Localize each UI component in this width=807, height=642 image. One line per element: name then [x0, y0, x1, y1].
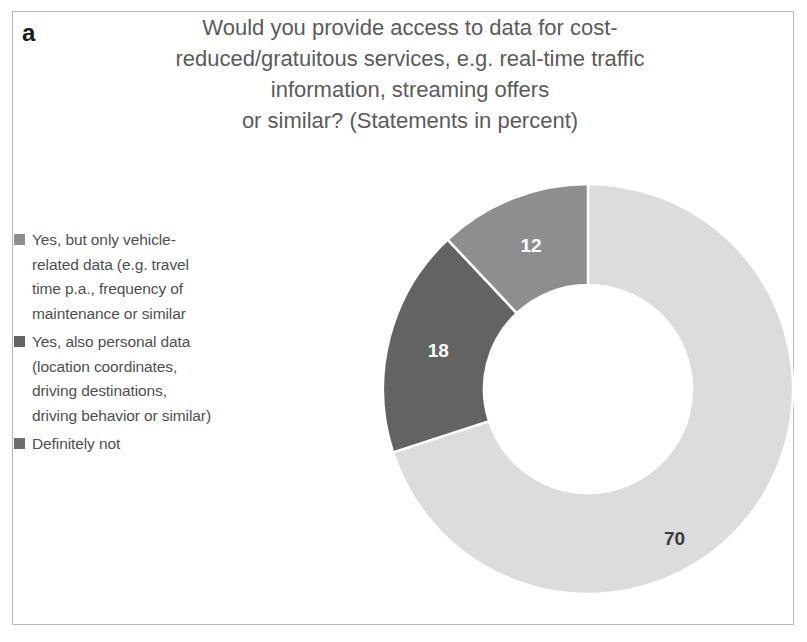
legend-item-label: Yes, also personal data (location coordi…: [32, 330, 211, 428]
legend-label-line: driving behavior or similar): [32, 407, 211, 424]
legend-label-line: time p.a., frequency of: [32, 280, 183, 297]
legend-item-vehicle-related-data[interactable]: Yes, but only vehicle- related data (e.g…: [14, 228, 282, 326]
legend-item-personal-data[interactable]: Yes, also personal data (location coordi…: [14, 330, 282, 428]
chart-legend: Yes, but only vehicle- related data (e.g…: [14, 228, 282, 461]
legend-swatch-icon: [14, 336, 25, 347]
slice-value-label: 12: [521, 235, 542, 256]
donut-chart: 701812: [381, 182, 795, 596]
legend-label-line: Yes, but only vehicle-: [32, 231, 176, 248]
legend-swatch-icon: [14, 438, 25, 449]
chart-title: Would you provide access to data for cos…: [110, 12, 710, 136]
legend-item-definitely-not[interactable]: Definitely not: [14, 432, 282, 457]
legend-item-label: Definitely not: [32, 432, 120, 457]
figure-panel: a Would you provide access to data for c…: [0, 0, 807, 642]
legend-label-line: driving destinations,: [32, 382, 167, 399]
legend-item-label: Yes, but only vehicle- related data (e.g…: [32, 228, 189, 326]
donut-chart-svg: 701812: [381, 182, 795, 596]
legend-label-line: Yes, also personal data: [32, 333, 190, 350]
slice-value-label: 18: [428, 340, 449, 361]
legend-label-line: Definitely not: [32, 435, 120, 452]
chart-title-line-1: Would you provide access to data for cos…: [110, 12, 710, 43]
legend-label-line: (location coordinates,: [32, 358, 177, 375]
chart-title-line-3: information, streaming offers: [110, 74, 710, 105]
legend-swatch-icon: [14, 234, 25, 245]
panel-letter-label: a: [22, 19, 36, 47]
legend-label-line: maintenance or similar: [32, 305, 186, 322]
chart-title-line-2: reduced/gratuitous services, e.g. real-t…: [110, 43, 710, 74]
chart-title-line-4: or similar? (Statements in percent): [110, 105, 710, 136]
legend-label-line: related data (e.g. travel: [32, 256, 189, 273]
slice-value-label: 70: [664, 528, 685, 549]
